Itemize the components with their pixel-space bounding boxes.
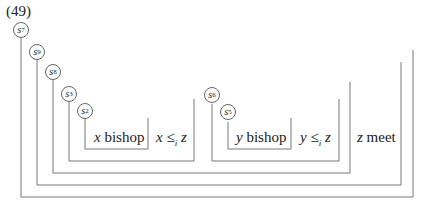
node-s2: s2 [77,103,93,119]
x-leq-z-condition: x ≤i z [156,130,187,148]
node-s8: s8 [45,64,61,80]
y-bishop-condition: y bishop [236,130,286,145]
node-s7: s7 [13,22,29,38]
node-s9: s9 [29,44,45,60]
node-s3: s3 [61,86,77,102]
node-s5: s5 [220,104,236,120]
node-s6: s6 [204,87,220,103]
x-bishop-condition: x bishop [94,130,144,145]
drs-box-lines [0,0,425,209]
y-leq-z-condition: y ≤i z [300,130,331,148]
z-meet-condition: z meet [357,130,396,145]
